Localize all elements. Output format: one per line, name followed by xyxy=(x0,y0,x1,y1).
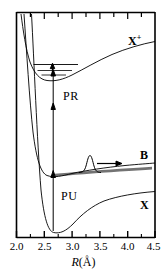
wavepacket-motion-arrow-icon xyxy=(97,161,122,166)
x-tick-label-2: 3.0 xyxy=(58,240,87,252)
x-tick-label-3: 3.5 xyxy=(86,240,115,252)
curve-label-x-text: X xyxy=(140,198,149,212)
probe-transition-arrow xyxy=(51,70,56,173)
pr-label: PR xyxy=(63,90,79,102)
curve-label-b-text: B xyxy=(140,148,148,162)
curve-label-x-plus-sup: + xyxy=(137,33,142,42)
top-axis-ticks xyxy=(30,13,141,20)
vibrational-levels-x-plus xyxy=(34,65,79,76)
plot-area xyxy=(0,0,167,277)
potential-energy-curve-figure: 2.0 2.5 3.0 3.5 4.0 4.5 R(Å) X+ B X PR P… xyxy=(0,0,167,277)
x-axis-title: R(Å) xyxy=(0,255,167,270)
curve-label-x-plus: X+ xyxy=(128,32,141,47)
curve-label-b: B xyxy=(140,149,148,161)
x-tick-label-4: 4.0 xyxy=(113,240,142,252)
x-axis-title-unit: (Å) xyxy=(79,255,96,269)
curve-label-x: X xyxy=(140,199,149,211)
x-axis-title-symbol: R xyxy=(71,255,78,269)
x-tick-label-0: 2.0 xyxy=(2,240,31,252)
x-tick-label-1: 2.5 xyxy=(30,240,59,252)
pu-label: PU xyxy=(61,190,77,202)
x-tick-label-5: 4.5 xyxy=(140,240,167,252)
curve-label-x-plus-text: X xyxy=(128,34,137,48)
pump-transition-arrow xyxy=(51,171,56,232)
